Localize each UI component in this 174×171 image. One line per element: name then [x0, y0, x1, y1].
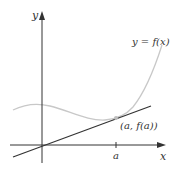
- x-axis-label: x: [160, 150, 167, 163]
- y-axis-arrow-icon: [39, 11, 45, 20]
- curve-label: y = f(x): [131, 36, 170, 47]
- x-axis-arrow-icon: [157, 142, 166, 148]
- tangent-line: [13, 106, 151, 157]
- function-curve: [13, 45, 162, 120]
- x-tick-label-a: a: [113, 150, 119, 161]
- tangent-point-label: (a, f(a)): [120, 120, 158, 131]
- tangent-point: [114, 116, 118, 120]
- tangent-line-diagram: y x y = f(x) (a, f(a)) a: [0, 0, 174, 171]
- y-axis-label: y: [31, 9, 39, 22]
